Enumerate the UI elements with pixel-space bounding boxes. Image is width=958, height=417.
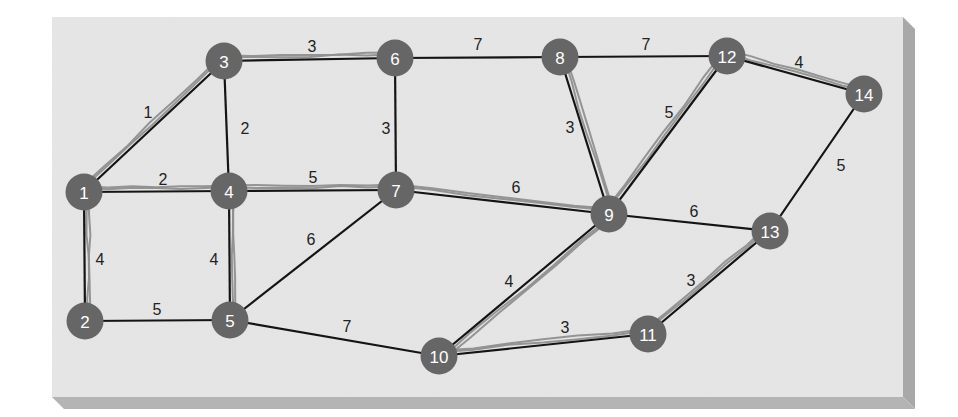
graph-diagram: 1243254537676735456433 12345678910111213… — [0, 0, 958, 417]
edge-weight-5-7: 6 — [307, 231, 316, 248]
edge-weight-3-4: 2 — [241, 120, 250, 137]
node-label: 14 — [855, 86, 874, 105]
edge-weight-1-4: 2 — [159, 171, 168, 188]
node-label: 5 — [225, 312, 234, 331]
node-11: 11 — [630, 316, 667, 353]
panel-shadow-bottom — [52, 397, 915, 409]
node-label: 2 — [80, 313, 89, 332]
edge-weight-11-13: 3 — [687, 272, 696, 289]
edge-6-7 — [395, 58, 396, 190]
panel-texture — [52, 17, 903, 397]
edge-weight-8-9: 3 — [566, 119, 575, 136]
node-label: 1 — [79, 184, 88, 203]
node-14: 14 — [846, 76, 883, 113]
edge-1-4 — [84, 191, 229, 192]
panel — [52, 17, 915, 409]
node-label: 12 — [718, 48, 737, 67]
panel-shadow-right — [903, 17, 915, 409]
edge-weight-5-10: 7 — [343, 318, 352, 335]
edge-weight-1-3: 1 — [144, 104, 153, 121]
edge-weight-9-10: 4 — [505, 273, 514, 290]
node-6: 6 — [377, 40, 414, 77]
edge-weight-10-11: 3 — [561, 319, 570, 336]
edge-weight-9-12: 5 — [665, 104, 674, 121]
node-13: 13 — [752, 213, 789, 250]
node-9: 9 — [591, 196, 628, 233]
edge-4-5 — [229, 191, 230, 320]
node-label: 4 — [224, 183, 233, 202]
edge-1-2 — [84, 192, 85, 321]
node-label: 3 — [219, 53, 228, 72]
node-label: 9 — [604, 206, 613, 225]
edge-4-7 — [229, 190, 396, 191]
node-12: 12 — [709, 38, 746, 75]
edge-weight-7-9: 6 — [512, 179, 521, 196]
node-label: 7 — [391, 182, 400, 201]
edge-6-8 — [395, 57, 560, 58]
node-4: 4 — [211, 173, 248, 210]
edge-weight-9-13: 6 — [690, 203, 699, 220]
node-label: 13 — [761, 223, 780, 242]
node-label: 10 — [430, 348, 449, 367]
node-label: 11 — [639, 326, 657, 345]
edge-weight-4-5: 4 — [210, 251, 219, 268]
edge-weight-1-2: 4 — [96, 251, 105, 268]
node-label: 6 — [390, 50, 399, 69]
node-10: 10 — [421, 338, 458, 375]
edge-weight-14-13: 5 — [837, 157, 846, 174]
node-5: 5 — [212, 302, 249, 339]
node-label: 8 — [555, 49, 564, 68]
node-7: 7 — [378, 172, 415, 209]
node-3: 3 — [206, 43, 243, 80]
edge-weight-6-7: 3 — [382, 120, 391, 137]
node-2: 2 — [67, 303, 104, 340]
edge-2-5 — [85, 320, 230, 321]
edge-8-12 — [560, 56, 727, 57]
edge-weight-6-8: 7 — [474, 36, 483, 53]
edge-weight-2-5: 5 — [153, 301, 162, 318]
node-8: 8 — [542, 39, 579, 76]
edge-weight-8-12: 7 — [642, 36, 651, 53]
edge-weight-12-14: 4 — [795, 54, 804, 71]
edge-weight-4-7: 5 — [309, 169, 318, 186]
node-1: 1 — [66, 174, 103, 211]
edge-weight-3-6: 3 — [308, 38, 317, 55]
